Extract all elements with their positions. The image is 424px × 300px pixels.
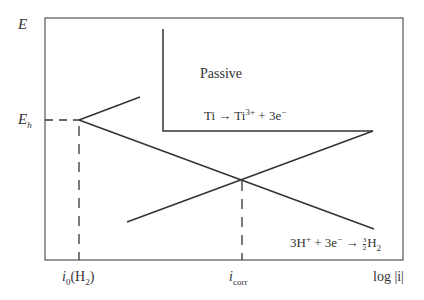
icorr-tick-label: icorr bbox=[229, 270, 247, 284]
cathodic-reaction-label: 3H+ + 3e− → 32H2 bbox=[290, 236, 381, 252]
i0-tick-label: i0(H2) bbox=[62, 270, 94, 284]
anodic-reaction-label: Ti → Ti3+ + 3e− bbox=[204, 109, 286, 122]
eh-tick-label: Eh bbox=[18, 112, 32, 127]
hydrogen-reduction-line bbox=[79, 120, 374, 229]
titanium-oxidation-line bbox=[127, 131, 373, 222]
y-axis-label: E bbox=[18, 17, 27, 32]
hydrogen-oxidation-branch bbox=[79, 97, 140, 120]
passive-label: Passive bbox=[200, 67, 242, 81]
three-halves-fraction: 32 bbox=[363, 237, 367, 252]
x-axis-label: log |i| bbox=[373, 270, 404, 284]
evans-diagram bbox=[0, 0, 424, 300]
